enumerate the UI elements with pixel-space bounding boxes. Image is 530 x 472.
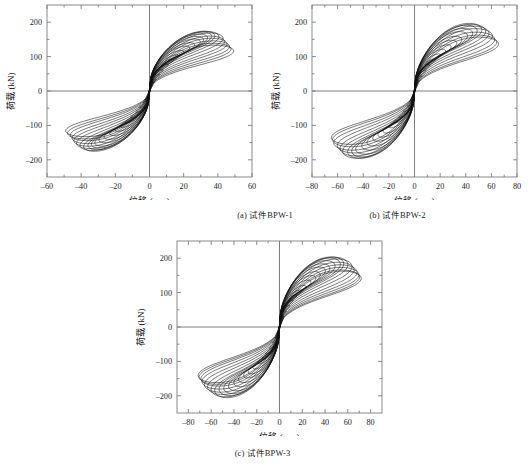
svg-text:位移 (mm): 位移 (mm) <box>129 195 169 200</box>
svg-text:0: 0 <box>412 182 416 191</box>
svg-text:100: 100 <box>30 53 42 62</box>
hysteresis-plot-bpw-1: –60–40–200204060–200–1000100200位移 (mm)荷载… <box>0 0 265 200</box>
caption-bpw-3: (c) 试件BPW-3 <box>130 446 395 458</box>
svg-text:40: 40 <box>214 182 222 191</box>
svg-text:200: 200 <box>295 18 307 27</box>
svg-text:100: 100 <box>160 289 172 298</box>
svg-text:0: 0 <box>147 182 151 191</box>
svg-text:荷载 (kN): 荷载 (kN) <box>270 72 281 109</box>
chart-panel-bpw-1: –60–40–200204060–200–1000100200位移 (mm)荷载… <box>0 0 265 236</box>
svg-text:位移 (mm): 位移 (mm) <box>259 431 299 436</box>
svg-text:荷载 (kN): 荷载 (kN) <box>5 72 16 109</box>
svg-text:位移 (mm): 位移 (mm) <box>394 195 434 200</box>
svg-text:100: 100 <box>295 53 307 62</box>
hysteresis-plot-bpw-2: –80–60–40–20020406080–200–1000100200位移 (… <box>265 0 530 200</box>
svg-text:60: 60 <box>487 182 495 191</box>
svg-text:60: 60 <box>344 418 352 427</box>
svg-text:–60: –60 <box>330 182 343 191</box>
svg-text:20: 20 <box>298 418 306 427</box>
svg-text:–40: –40 <box>74 182 87 191</box>
svg-text:–20: –20 <box>250 418 263 427</box>
svg-text:–200: –200 <box>290 156 307 165</box>
svg-text:–60: –60 <box>40 182 53 191</box>
svg-text:200: 200 <box>160 254 172 263</box>
svg-text:–200: –200 <box>25 156 42 165</box>
svg-text:–80: –80 <box>305 182 318 191</box>
svg-text:20: 20 <box>180 182 188 191</box>
svg-text:–100: –100 <box>25 121 42 130</box>
svg-text:80: 80 <box>367 418 375 427</box>
svg-text:–60: –60 <box>204 418 217 427</box>
svg-text:–100: –100 <box>290 121 307 130</box>
svg-text:–20: –20 <box>382 182 395 191</box>
svg-text:200: 200 <box>30 18 42 27</box>
svg-text:60: 60 <box>248 182 256 191</box>
chart-panel-bpw-3: –80–60–40–20020406080–200–1000100200位移 (… <box>130 236 395 472</box>
svg-text:–20: –20 <box>108 182 121 191</box>
svg-text:–200: –200 <box>155 392 172 401</box>
svg-text:40: 40 <box>321 418 329 427</box>
svg-text:20: 20 <box>436 182 444 191</box>
svg-text:80: 80 <box>513 182 521 191</box>
svg-text:–40: –40 <box>356 182 369 191</box>
chart-panel-bpw-2: –80–60–40–20020406080–200–1000100200位移 (… <box>265 0 530 236</box>
svg-text:0: 0 <box>303 87 307 96</box>
svg-text:–100: –100 <box>155 357 172 366</box>
svg-text:0: 0 <box>38 87 42 96</box>
svg-text:0: 0 <box>277 418 281 427</box>
svg-text:–80: –80 <box>181 418 194 427</box>
svg-text:0: 0 <box>168 323 172 332</box>
caption-bpw-2: (b) 试件BPW-2 <box>265 208 530 220</box>
svg-text:荷载 (kN): 荷载 (kN) <box>135 308 146 345</box>
svg-text:–40: –40 <box>227 418 240 427</box>
hysteresis-plot-bpw-3: –80–60–40–20020406080–200–1000100200位移 (… <box>130 236 395 436</box>
svg-text:40: 40 <box>462 182 470 191</box>
